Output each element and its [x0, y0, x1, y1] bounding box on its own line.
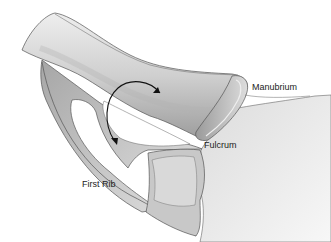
label-first-rib: First Rib — [82, 180, 116, 189]
rib-drawing — [0, 0, 331, 242]
anatomical-illustration: Manubrium Fulcrum First Rib — [0, 0, 331, 242]
label-manubrium: Manubrium — [252, 83, 297, 92]
label-fulcrum: Fulcrum — [204, 141, 237, 150]
